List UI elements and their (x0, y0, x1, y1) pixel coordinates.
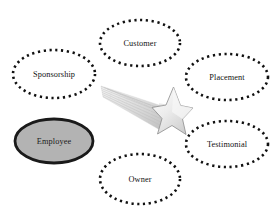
node-owner-label: Owner (128, 175, 151, 184)
node-owner[interactable]: Owner (100, 154, 180, 204)
node-testimonial-label: Testimonial (207, 140, 248, 149)
diagram-svg: Customer Sponsorship Placement Testimoni… (0, 0, 275, 215)
node-sponsorship-label: Sponsorship (33, 70, 75, 79)
node-placement-label: Placement (209, 73, 245, 82)
diagram-canvas: Customer Sponsorship Placement Testimoni… (0, 0, 275, 215)
node-customer[interactable]: Customer (100, 20, 180, 66)
node-customer-label: Customer (123, 39, 156, 48)
node-employee[interactable]: Employee (15, 119, 93, 163)
shooting-star-graphic (101, 86, 193, 135)
node-employee-label: Employee (37, 137, 72, 146)
node-placement[interactable]: Placement (186, 54, 268, 100)
node-sponsorship[interactable]: Sponsorship (13, 50, 95, 98)
node-testimonial[interactable]: Testimonial (186, 121, 268, 167)
